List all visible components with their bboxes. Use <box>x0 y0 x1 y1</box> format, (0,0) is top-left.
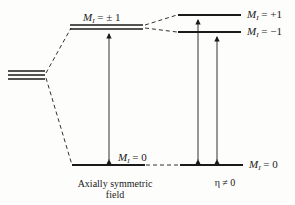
symbol: M <box>118 151 127 163</box>
subscript: I <box>256 31 258 39</box>
label-left-pm1: MI = ± 1 <box>83 12 121 25</box>
symbol: M <box>247 25 256 37</box>
level-value: = ± 1 <box>97 11 120 23</box>
subscript: I <box>127 157 129 165</box>
left-level-pm1 <box>70 25 143 29</box>
label-right-minus1: MI = −1 <box>247 26 282 39</box>
connector-to-zero <box>46 78 72 165</box>
connector-pm1-to-plus1 <box>145 15 177 25</box>
symbol: M <box>247 8 256 20</box>
label-right-zero: MI = 0 <box>249 159 278 172</box>
caption-line-2: field <box>60 189 170 200</box>
level-value: = +1 <box>261 8 282 20</box>
subscript: I <box>92 17 94 25</box>
level-value: = 0 <box>132 151 146 163</box>
connector-to-pm1 <box>46 28 71 73</box>
right-caption: η ≠ 0 <box>205 177 245 188</box>
subscript: I <box>258 164 260 172</box>
connector-pm1-to-minus1 <box>145 28 177 32</box>
symbol: M <box>249 158 258 170</box>
symbol: M <box>83 11 92 23</box>
degenerate-level <box>8 71 45 79</box>
level-value: = −1 <box>261 25 282 37</box>
level-value: = 0 <box>263 158 277 170</box>
left-caption: Axially symmetric field <box>60 178 170 200</box>
label-right-plus1: MI = +1 <box>247 9 282 22</box>
subscript: I <box>256 14 258 22</box>
caption-line-1: Axially symmetric <box>60 178 170 189</box>
label-left-zero: MI = 0 <box>118 152 147 165</box>
